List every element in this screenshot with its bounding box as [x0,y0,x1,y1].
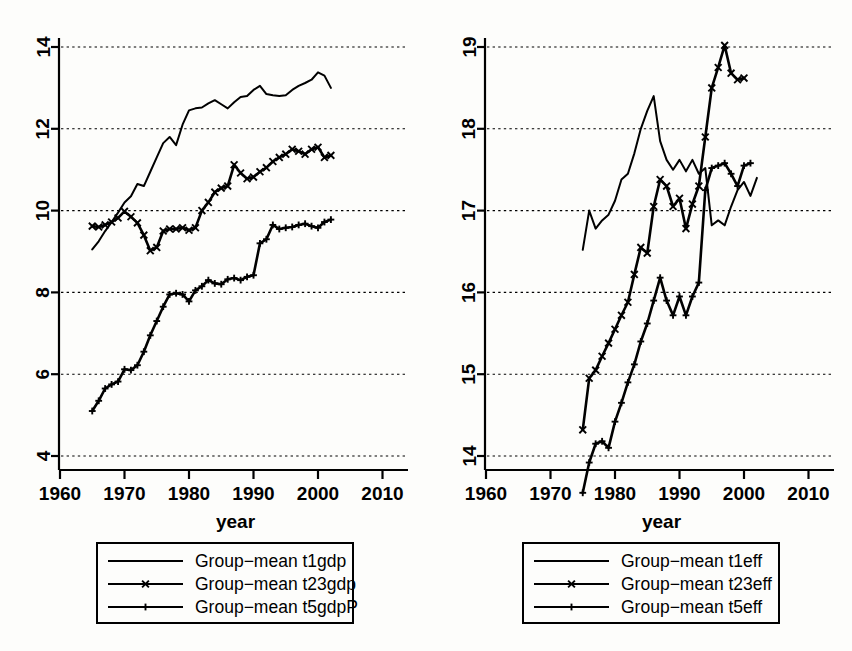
chart-panel-left: 468101214196019701980199020002010yearGro… [0,0,426,651]
y-tick-label-16: 16 [459,282,480,303]
chart-svg-right: 141516171819196019701980199020002010year… [426,0,852,651]
x-tick-label-1970: 1970 [103,483,145,504]
x-tick-label-1980: 1980 [168,483,210,504]
x-tick-label-1990: 1990 [232,483,274,504]
series-line-group-mean-t23eff [583,45,744,429]
y-tick-label-19: 19 [459,36,480,57]
y-tick-label-6: 6 [33,369,54,380]
y-tick-label-17: 17 [459,200,480,221]
legend-item-label-2: Group−mean t5gdpP [195,597,358,617]
x-tick-label-1960: 1960 [465,483,507,504]
y-tick-label-4: 4 [33,450,54,461]
y-tick-label-14: 14 [459,445,480,467]
x-tick-label-2000: 2000 [297,483,339,504]
x-tick-label-1980: 1980 [594,483,636,504]
x-tick-label-2010: 2010 [361,483,403,504]
y-tick-label-18: 18 [459,118,480,139]
y-tick-label-12: 12 [33,118,54,139]
x-tick-label-2010: 2010 [787,483,829,504]
x-axis-title: year [216,511,256,532]
legend-item-label-2: Group−mean t5eff [621,597,762,617]
x-tick-label-2000: 2000 [723,483,765,504]
x-axis-title: year [642,511,682,532]
x-tick-label-1960: 1960 [39,483,81,504]
series-line-group-mean-t5eff [583,163,751,493]
legend-item-label-0: Group−mean t1gdp [195,551,346,571]
chart-panel-right: 141516171819196019701980199020002010year… [426,0,852,651]
series-markers-group-mean-t5gdpp [89,216,334,414]
series-line-group-mean-t5gdpp [92,220,331,411]
y-tick-label-15: 15 [459,363,480,385]
series-line-group-mean-t1gdp [92,72,331,249]
x-tick-label-1970: 1970 [529,483,571,504]
series-markers-group-mean-t23eff [579,42,747,433]
legend-item-label-1: Group−mean t23gdp [195,574,356,594]
x-tick-label-1990: 1990 [658,483,700,504]
figure-root: 468101214196019701980199020002010yearGro… [0,0,852,651]
y-tick-label-10: 10 [33,200,54,221]
legend-item-label-0: Group−mean t1eff [621,551,762,571]
y-tick-label-8: 8 [33,287,54,298]
series-markers-group-mean-t23gdp [89,144,334,254]
y-tick-label-14: 14 [33,36,54,58]
chart-svg-left: 468101214196019701980199020002010yearGro… [0,0,426,651]
legend-item-label-1: Group−mean t23eff [621,574,772,594]
